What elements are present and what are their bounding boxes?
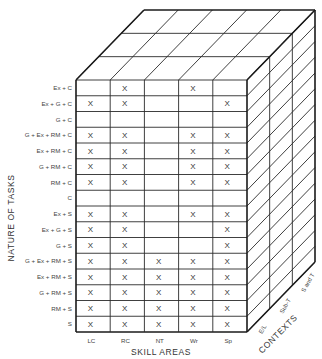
skill-area-label: Wr: [190, 337, 198, 344]
x-mark: X: [88, 288, 94, 297]
x-mark: X: [88, 225, 94, 234]
skill-area-label: RC: [121, 337, 130, 344]
x-mark: X: [88, 210, 94, 219]
x-mark: X: [88, 273, 94, 282]
x-mark: X: [190, 304, 196, 313]
x-mark: X: [224, 241, 230, 250]
x-mark: X: [88, 99, 94, 108]
x-mark: X: [190, 147, 196, 156]
task-label: S: [68, 320, 72, 327]
x-mark: X: [224, 210, 230, 219]
x-mark: X: [224, 178, 230, 187]
x-mark: X: [156, 288, 162, 297]
context-label: Sub-T: [279, 297, 293, 314]
task-label: Ex + G + S: [42, 226, 72, 233]
x-mark: X: [224, 273, 230, 282]
task-label: Ex + S: [54, 210, 72, 217]
skill-area-labels: LCRCNTWrSp: [87, 337, 232, 344]
skill-area-label: NT: [156, 337, 164, 344]
x-mark: X: [156, 320, 162, 329]
x-mark: X: [88, 320, 94, 329]
x-mark: X: [224, 99, 230, 108]
x-mark: X: [88, 131, 94, 140]
x-mark: X: [122, 241, 128, 250]
x-mark: X: [88, 304, 94, 313]
x-mark: X: [88, 241, 94, 250]
task-label: RM + C: [51, 179, 73, 186]
task-label: G + Ex + RM + S: [25, 257, 72, 264]
x-mark: X: [190, 162, 196, 171]
skill-area-label: LC: [87, 337, 95, 344]
task-label: Ex + G + C: [41, 100, 72, 107]
x-mark: X: [122, 257, 128, 266]
skill-area-label: Sp: [224, 337, 232, 344]
task-label: Ex + RM + C: [37, 147, 73, 154]
x-mark: X: [190, 210, 196, 219]
x-mark: X: [122, 131, 128, 140]
x-mark: X: [224, 147, 230, 156]
x-mark: X: [156, 304, 162, 313]
x-mark: X: [88, 162, 94, 171]
x-mark: X: [122, 178, 128, 187]
x-mark: X: [224, 131, 230, 140]
task-label: G + Ex + RM + C: [25, 131, 73, 138]
x-mark: X: [224, 257, 230, 266]
x-mark: X: [122, 320, 128, 329]
x-mark: X: [88, 257, 94, 266]
y-axis-title: NATURE OF TASKS: [6, 175, 16, 262]
x-mark: X: [190, 273, 196, 282]
task-label: G + RM + S: [39, 289, 72, 296]
task-label: RM + S: [51, 305, 72, 312]
x-mark: X: [122, 99, 128, 108]
x-mark: X: [224, 304, 230, 313]
context-label: E/L: [258, 323, 268, 334]
task-label: Ex + C: [53, 84, 72, 91]
x-mark: X: [190, 320, 196, 329]
x-mark: X: [190, 288, 196, 297]
x-mark: X: [224, 225, 230, 234]
x-mark: X: [122, 273, 128, 282]
task-label: Ex + RM + S: [37, 273, 72, 280]
x-mark: X: [224, 288, 230, 297]
task-label: C: [68, 194, 73, 201]
x-mark: X: [190, 178, 196, 187]
x-mark: X: [122, 225, 128, 234]
task-labels: Ex + CEx + G + CG + CG + Ex + RM + CEx +…: [25, 84, 73, 327]
x-mark: X: [122, 210, 128, 219]
x-mark: X: [190, 131, 196, 140]
x-mark: X: [122, 147, 128, 156]
x-mark: X: [88, 178, 94, 187]
x-mark: X: [122, 162, 128, 171]
x-mark: X: [190, 84, 196, 93]
x-mark: X: [156, 273, 162, 282]
x-mark: X: [122, 288, 128, 297]
x-mark: X: [190, 257, 196, 266]
x-mark: X: [224, 162, 230, 171]
task-label: G + S: [56, 242, 72, 249]
x-axis-title: SKILL AREAS: [131, 347, 191, 357]
x-mark: X: [156, 257, 162, 266]
x-mark: X: [122, 304, 128, 313]
x-mark: X: [88, 147, 94, 156]
task-label: G + RM + C: [39, 163, 73, 170]
skill-task-context-cube: Ex + CEx + G + CG + CG + Ex + RM + CEx +…: [0, 0, 322, 359]
x-mark: X: [122, 84, 128, 93]
task-label: G + C: [56, 116, 73, 123]
x-mark: X: [224, 320, 230, 329]
